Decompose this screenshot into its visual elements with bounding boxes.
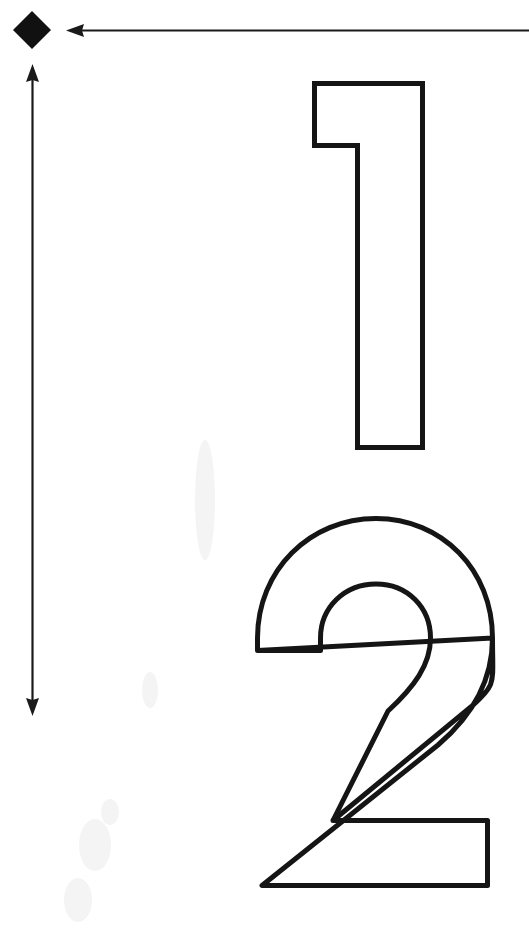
diamond-marker — [13, 11, 51, 49]
numeral-two — [258, 519, 493, 886]
scanned-page: Outlined numerals 1 and 2 with dimension… — [0, 0, 529, 936]
diagram-canvas — [0, 0, 529, 936]
vertical-arrow — [26, 64, 39, 716]
horizontal-arrow — [66, 24, 529, 37]
numeral-one — [315, 84, 423, 448]
scan-artifacts — [64, 440, 215, 922]
